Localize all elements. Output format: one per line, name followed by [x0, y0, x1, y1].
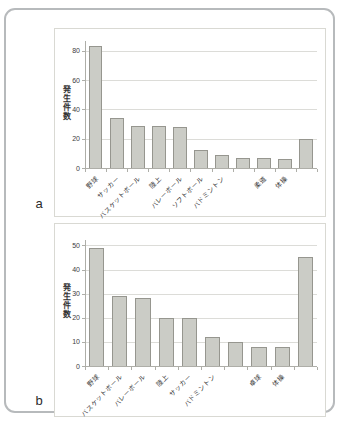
x-tick-mark — [108, 367, 109, 370]
y-tick-label: 80 — [60, 47, 80, 54]
gridline — [85, 109, 317, 110]
x-tick-label: 柔道 — [253, 175, 268, 190]
bar — [298, 257, 313, 366]
x-tick-mark — [178, 367, 179, 370]
x-tick-mark — [85, 169, 86, 172]
y-tick-label: 0 — [60, 363, 80, 370]
gridline — [85, 294, 317, 295]
x-tick-mark — [294, 367, 295, 370]
x-tick-label: 卓球 — [248, 373, 263, 388]
bar — [89, 46, 103, 168]
x-tick-mark — [190, 169, 191, 172]
gridline — [85, 51, 317, 52]
x-tick-mark — [169, 169, 170, 172]
x-tick-mark — [148, 169, 149, 172]
x-tick-mark — [296, 169, 297, 172]
y-axis-line — [85, 41, 86, 169]
y-axis-title: 発生件数 — [61, 283, 70, 319]
y-axis-title: 発生件数 — [61, 85, 70, 121]
x-tick-mark — [275, 169, 276, 172]
bar — [228, 342, 243, 366]
y-axis-line — [85, 240, 86, 367]
bar — [251, 347, 266, 366]
x-axis-line — [85, 168, 317, 169]
x-tick-label: バスケットボール — [79, 373, 124, 418]
bar — [236, 158, 250, 168]
y-tick-label: 60 — [60, 77, 80, 84]
bar — [159, 318, 174, 366]
x-tick-label: 体操 — [274, 175, 289, 190]
gridline — [85, 245, 317, 246]
bar — [112, 296, 127, 366]
panel-label-a: a — [32, 196, 46, 211]
x-tick-label: 陸上 — [155, 373, 170, 388]
chart-panel-a: 020406080野球サッカーバスケットボール陸上バレーボールソフトボールバドミ… — [54, 28, 326, 217]
chart-panel-b: 01020304050野球バスケットボールバレーボール陸上サッカーバドミントン卓… — [54, 223, 326, 417]
x-tick-mark — [155, 367, 156, 370]
y-tick-label: 0 — [60, 165, 80, 172]
bar — [215, 155, 229, 168]
x-tick-label: バスケットボール — [97, 175, 142, 220]
bar — [131, 126, 145, 168]
x-tick-mark — [127, 169, 128, 172]
bar — [278, 159, 292, 168]
x-tick-mark — [131, 367, 132, 370]
x-tick-mark — [106, 169, 107, 172]
x-tick-mark — [212, 169, 213, 172]
bar — [299, 139, 313, 168]
bar — [135, 298, 150, 366]
bar — [89, 248, 104, 366]
bar — [152, 126, 166, 168]
x-tick-mark — [271, 367, 272, 370]
panel-label-b: b — [32, 393, 46, 408]
gridline — [85, 270, 317, 271]
bar — [110, 118, 124, 168]
y-tick-label: 40 — [60, 266, 80, 273]
x-tick-mark — [317, 367, 318, 370]
bar — [275, 347, 290, 366]
x-tick-mark — [233, 169, 234, 172]
bar — [205, 337, 220, 366]
y-tick-label: 10 — [60, 338, 80, 345]
x-tick-mark — [85, 367, 86, 370]
figure-frame: 020406080野球サッカーバスケットボール陸上バレーボールソフトボールバドミ… — [4, 8, 335, 413]
bar — [182, 318, 197, 366]
gridline — [85, 80, 317, 81]
x-tick-mark — [247, 367, 248, 370]
bar — [257, 158, 271, 168]
x-tick-label: 陸上 — [148, 175, 163, 190]
x-tick-mark — [254, 169, 255, 172]
bar — [173, 127, 187, 168]
y-tick-label: 50 — [60, 242, 80, 249]
x-tick-mark — [201, 367, 202, 370]
x-tick-label: 野球 — [86, 373, 101, 388]
x-tick-mark — [317, 169, 318, 172]
y-tick-label: 20 — [60, 135, 80, 142]
x-tick-label: 体操 — [271, 373, 286, 388]
x-tick-mark — [224, 367, 225, 370]
bar — [194, 150, 208, 168]
x-tick-label: 野球 — [85, 175, 100, 190]
